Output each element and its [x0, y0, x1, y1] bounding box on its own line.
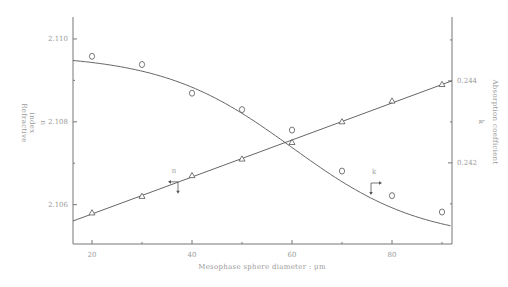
k-annotation-label: k: [372, 168, 377, 176]
n-fit-line: [73, 81, 452, 221]
triangle-marker: [189, 172, 195, 177]
n-arrow-down-icon: [176, 191, 180, 194]
x-tick-label: 80: [388, 251, 397, 259]
markers: [89, 53, 445, 215]
n-arrow-left-icon: [168, 180, 171, 184]
chart: 204060802.1062.1082.1100.2420.244 nk Mes…: [0, 0, 508, 287]
triangle-marker: [239, 156, 245, 161]
right-axis-title: Absorption coefficient: [491, 78, 499, 164]
right-tick-label: 0.242: [457, 159, 477, 167]
triangle-marker: [139, 193, 145, 198]
axes: 204060802.1062.1082.1100.2420.244: [48, 17, 478, 259]
circle-marker: [339, 168, 344, 174]
k-arrow-down-icon: [369, 192, 373, 195]
circle-marker: [189, 90, 194, 96]
circle-marker: [439, 209, 444, 215]
triangle-marker: [89, 210, 95, 215]
n-annotation-label: n: [172, 167, 177, 175]
circle-marker: [289, 127, 294, 133]
triangle-marker: [389, 98, 395, 103]
left-tick-label: 2.106: [48, 201, 69, 209]
left-axis-title-line1: Refractive: [20, 103, 28, 143]
circle-marker: [89, 53, 94, 59]
k-arrow-right-icon: [379, 181, 382, 185]
left-tick-label: 2.108: [48, 118, 68, 126]
right-tick-label: 0.244: [457, 77, 478, 85]
left-axis-symbol: n: [39, 121, 47, 126]
k-fit-curve: [73, 60, 451, 225]
x-axis-title: Mesophase sphere diameter : μm: [198, 263, 326, 271]
triangle-marker: [289, 139, 295, 144]
x-tick-label: 40: [188, 251, 197, 259]
curves: [73, 60, 452, 225]
circle-marker: [389, 193, 394, 199]
right-axis-symbol: k: [477, 120, 485, 125]
left-axis-title-line2: index: [28, 113, 36, 134]
annotations: nk: [168, 167, 382, 195]
left-tick-label: 2.110: [48, 35, 68, 43]
x-tick-label: 20: [88, 251, 97, 259]
circle-marker: [139, 62, 144, 68]
x-tick-label: 60: [288, 251, 297, 259]
circle-marker: [239, 107, 244, 113]
